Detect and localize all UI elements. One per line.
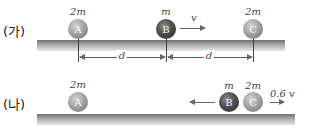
- velocity-label-c: 0.6 v: [270, 88, 295, 99]
- mass-label-c: 2m: [245, 6, 261, 17]
- ball-b-label: B: [225, 97, 232, 108]
- ball-b: B: [219, 92, 239, 112]
- ball-b: B: [156, 19, 176, 39]
- distance-label-ab: d: [117, 50, 127, 61]
- ball-a: A: [68, 19, 88, 39]
- mass-label-b: m: [224, 80, 233, 91]
- ball-c: C: [243, 19, 263, 39]
- ball-c: C: [243, 92, 263, 112]
- ball-c-label: C: [249, 24, 257, 35]
- distance-label-bc: d: [204, 50, 214, 61]
- dimension-tick-c: [253, 39, 254, 62]
- mass-label-a: 2m: [70, 79, 86, 90]
- ball-c-label: C: [249, 97, 257, 108]
- ball-b-label: B: [162, 24, 169, 35]
- floor: [37, 114, 295, 125]
- ball-a-label: A: [74, 24, 81, 35]
- velocity-label-b: v: [191, 12, 197, 23]
- panel-label: (나): [3, 94, 25, 113]
- ball-a: A: [68, 92, 88, 112]
- velocity-arrow-left-icon: [190, 102, 215, 103]
- mass-label-c: 2m: [245, 80, 261, 91]
- mass-label-b: m: [161, 6, 170, 17]
- floor: [37, 40, 285, 51]
- velocity-arrow-right-icon: [180, 28, 205, 29]
- ball-a-label: A: [74, 97, 81, 108]
- velocity-arrow-right-icon: [270, 102, 284, 103]
- mass-label-a: 2m: [70, 6, 86, 17]
- panel-label: (가): [3, 21, 25, 40]
